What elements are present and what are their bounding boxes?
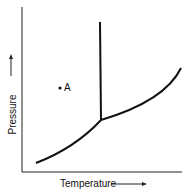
fusion-line [100, 22, 101, 120]
sublimation-curve [36, 120, 101, 163]
pressure-arrow-icon [9, 54, 13, 76]
point-a-marker [58, 86, 61, 89]
point-a-label: A [64, 82, 71, 93]
vaporization-curve [101, 68, 181, 120]
x-axis-label: Temperature [60, 178, 116, 189]
temperature-arrow-icon [111, 182, 147, 186]
phase-diagram [0, 0, 194, 194]
y-axis-label: Pressure [7, 87, 18, 143]
axes [22, 7, 182, 172]
